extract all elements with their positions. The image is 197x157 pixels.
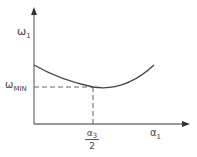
x-axis-symbol: α (150, 127, 157, 138)
x-axis-label: α1 (150, 128, 161, 138)
y-axis-arrow-icon (31, 7, 37, 15)
x-marker-numerator: α3 (87, 129, 97, 138)
y-axis-subscript: 1 (26, 32, 30, 40)
x-axis-subscript: 1 (157, 133, 161, 141)
y-axis-symbol: ω (17, 25, 26, 38)
min-subscript: MIN (13, 85, 26, 93)
omega-curve (34, 65, 154, 88)
x-marker-symbol: α (87, 128, 93, 138)
x-marker-fraction: α3 2 (85, 129, 99, 151)
x-marker-subscript: 3 (93, 132, 97, 140)
y-axis-label: ω1 (17, 26, 31, 37)
min-label: ωMIN (5, 80, 27, 90)
x-marker-denominator: 2 (89, 142, 95, 151)
x-axis-arrow-icon (182, 121, 190, 127)
